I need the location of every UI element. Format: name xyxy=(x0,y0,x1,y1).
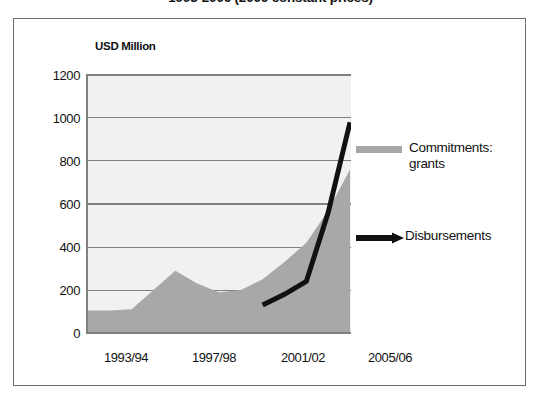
y-tick-1000: 1000 xyxy=(53,111,80,126)
x-tick-label-1997-98: 1997/98 xyxy=(192,350,236,365)
x-axis-tick-labels: 1993/94 1997/98 2001/02 2005/06 xyxy=(60,350,400,372)
legend-item-commitments-grants: Commitments: grants xyxy=(356,140,527,172)
legend-arrow-line-icon xyxy=(356,230,404,246)
y-tick-200: 200 xyxy=(60,283,81,298)
y-tick-1200: 1200 xyxy=(53,68,80,83)
legend-swatch-area-icon xyxy=(356,146,402,153)
y-tick-0: 0 xyxy=(73,326,80,341)
legend-label-commitments-grants: Commitments: grants xyxy=(409,140,527,172)
legend-label-disbursements: Disbursements xyxy=(405,228,491,244)
x-axis xyxy=(88,333,351,334)
plot-area xyxy=(86,74,351,334)
y-axis-unit-label: USD Million xyxy=(95,40,156,52)
y-tick-400: 400 xyxy=(60,240,81,255)
y-tick-600: 600 xyxy=(60,197,81,212)
chart-canvas xyxy=(88,74,351,334)
series-commitments-grants-area xyxy=(88,170,350,333)
chart-page: 1993-2006 (2006 constant prices) USD Mil… xyxy=(0,0,541,403)
chart-title: 1993-2006 (2006 constant prices) xyxy=(0,0,541,8)
y-tick-800: 800 xyxy=(60,154,81,169)
x-tick-label-2001-02: 2001/02 xyxy=(281,350,325,365)
y-axis-tick-labels: 1200 1000 800 600 400 200 0 xyxy=(20,60,80,350)
x-tick-label-2005-06: 2005/06 xyxy=(368,350,412,365)
legend-item-disbursements: Disbursements xyxy=(356,228,491,246)
x-tick-label-1993-94: 1993/94 xyxy=(104,350,148,365)
